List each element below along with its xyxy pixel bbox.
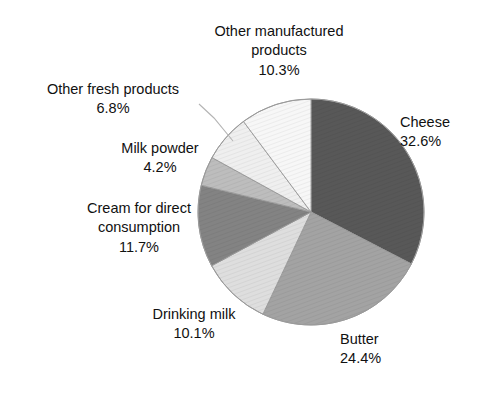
slice-label-name-line2: products xyxy=(186,41,372,60)
slice-label-name: Milk powder xyxy=(84,139,236,158)
slice-label-value: 4.2% xyxy=(84,158,236,177)
slice-label-name: Other fresh products xyxy=(20,80,206,99)
slice-label-value: 6.8% xyxy=(20,99,206,118)
slice-label-butter: Butter 24.4% xyxy=(340,330,436,369)
pie-chart: Other manufactured products 10.3% Cheese… xyxy=(0,0,486,398)
slice-label-name: Drinking milk xyxy=(118,305,270,324)
slice-label-name: Cream for direct xyxy=(56,199,222,218)
slice-label-value: 11.7% xyxy=(56,238,222,257)
slice-label-value: 10.3% xyxy=(186,61,372,80)
slice-label-cream-for-direct-consumption: Cream for direct consumption 11.7% xyxy=(56,199,222,257)
slice-label-name-line2: consumption xyxy=(56,218,222,237)
slice-label-value: 32.6% xyxy=(400,132,486,151)
slice-label-milk-powder: Milk powder 4.2% xyxy=(84,139,236,178)
slice-label-value: 24.4% xyxy=(340,349,436,368)
slice-label-other-fresh-products: Other fresh products 6.8% xyxy=(20,80,206,119)
slice-label-name: Other manufactured xyxy=(186,22,372,41)
slice-label-name: Cheese xyxy=(400,113,486,132)
slice-label-value: 10.1% xyxy=(118,324,270,343)
slice-label-cheese: Cheese 32.6% xyxy=(400,113,486,152)
slice-label-other-manufactured-products: Other manufactured products 10.3% xyxy=(186,22,372,80)
slice-label-drinking-milk: Drinking milk 10.1% xyxy=(118,305,270,344)
slice-label-name: Butter xyxy=(340,330,436,349)
